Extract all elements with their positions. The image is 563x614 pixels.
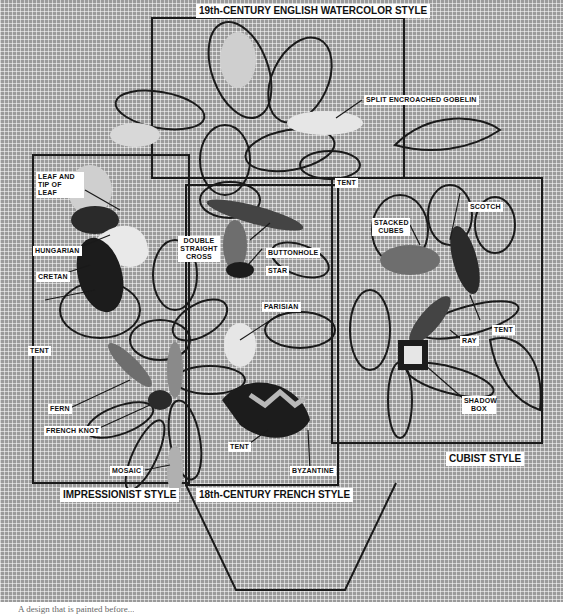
panel-title-french: 18th-CENTURY FRENCH STYLE [196, 488, 353, 502]
label-tent-watercolor: TENT [335, 178, 358, 188]
label-stacked-cubes: STACKED CUBES [372, 218, 410, 236]
label-tent-impressionist: TENT [28, 346, 51, 356]
label-cretan: CRETAN [36, 272, 70, 282]
label-hungarian: HUNGARIAN [33, 246, 82, 256]
panel-title-cubist: CUBIST STYLE [446, 452, 524, 466]
panel-title-watercolor: 19th-CENTURY ENGLISH WATERCOLOR STYLE [196, 4, 430, 18]
label-shadow-box: SHADOW BOX [462, 396, 496, 414]
label-mosaic: MOSAIC [110, 466, 143, 476]
label-leaf-and-tip-of-leaf: LEAF AND TIP OF LEAF [36, 172, 84, 198]
label-split-encroached-gobelin: SPLIT ENCROACHED GOBELIN [364, 95, 479, 105]
label-star: STAR [266, 266, 289, 276]
label-double-straight-cross: DOUBLE STRAIGHT CROSS [178, 236, 220, 262]
label-buttonhole: BUTTONHOLE [266, 248, 320, 258]
label-tent-cubist: TENT [492, 325, 515, 335]
label-parisian: PARISIAN [262, 302, 301, 312]
label-ray: RAY [460, 336, 479, 346]
panel-title-impressionist: IMPRESSIONIST STYLE [60, 488, 179, 502]
label-french-knot: FRENCH KNOT [44, 426, 101, 436]
bouquet-illustration [0, 0, 563, 602]
label-scotch: SCOTCH [468, 202, 503, 212]
figure-caption: A design that is painted before... [18, 604, 134, 614]
label-byzantine: BYZANTINE [290, 466, 336, 476]
label-fern: FERN [48, 404, 72, 414]
label-tent-french: TENT [228, 442, 251, 452]
